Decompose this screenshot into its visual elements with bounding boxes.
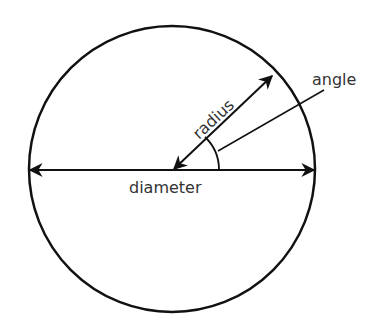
- angle-leader-line: [218, 90, 324, 151]
- diameter-label: diameter: [129, 178, 202, 197]
- circle-diagram: radius angle diameter: [0, 0, 385, 329]
- angle-arc: [205, 137, 219, 169]
- angle-label: angle: [312, 70, 356, 89]
- radius-label: radius: [189, 95, 238, 143]
